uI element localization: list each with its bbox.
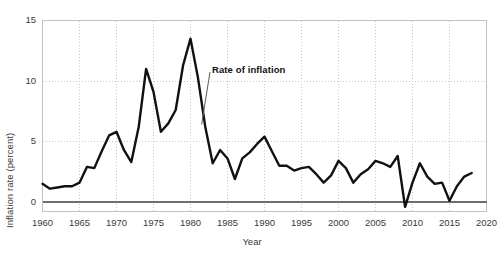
x-tick-label-2015: 2015: [430, 217, 470, 228]
x-tick-label-1980: 1980: [171, 217, 211, 228]
annotation-rate-of-inflation: Rate of inflation: [212, 64, 285, 75]
x-axis-title: Year: [0, 236, 504, 247]
x-tick-label-1990: 1990: [245, 217, 285, 228]
y-tick-label-15: 15: [12, 14, 36, 25]
vertical-gridlines: [80, 21, 450, 212]
x-tick-label-1970: 1970: [97, 217, 137, 228]
inflation-rate-chart: Inflation rate (percent) 051015 19601965…: [0, 0, 504, 256]
x-tick-label-1965: 1965: [60, 217, 100, 228]
x-tick-label-1960: 1960: [23, 217, 63, 228]
y-tick-label-5: 5: [12, 135, 36, 146]
x-tick-label-1975: 1975: [134, 217, 174, 228]
y-tick-label-0: 0: [12, 196, 36, 207]
x-tick-label-2020: 2020: [467, 217, 504, 228]
x-tick-label-2005: 2005: [356, 217, 396, 228]
x-tick-label-2000: 2000: [319, 217, 359, 228]
x-tick-label-1985: 1985: [208, 217, 248, 228]
x-tick-label-2010: 2010: [393, 217, 433, 228]
y-tick-label-10: 10: [12, 75, 36, 86]
x-tick-label-1995: 1995: [282, 217, 322, 228]
annotation-leader-line: [202, 72, 210, 125]
